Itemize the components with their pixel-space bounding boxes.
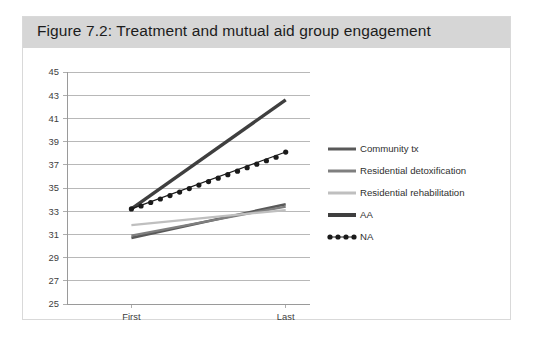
- svg-text:33: 33: [49, 206, 59, 217]
- figure-title: Figure 7.2: Treatment and mutual aid gro…: [37, 22, 431, 40]
- figure-title-bar: Figure 7.2: Treatment and mutual aid gro…: [23, 17, 510, 48]
- svg-text:27: 27: [49, 275, 59, 286]
- x-axis-tick-labels: FirstLast: [122, 304, 295, 320]
- legend-swatch-icon: [327, 231, 357, 243]
- legend-swatch-icon: [327, 187, 357, 199]
- svg-text:First: First: [122, 311, 141, 320]
- legend-swatch-icon: [327, 143, 357, 155]
- svg-text:Last: Last: [277, 311, 295, 320]
- svg-text:37: 37: [49, 159, 59, 170]
- legend-item-label: Community tx: [360, 143, 419, 155]
- svg-text:25: 25: [49, 298, 59, 309]
- legend-item-community-tx[interactable]: Community tx: [327, 138, 507, 160]
- series-residential-rehabilitation: [131, 210, 285, 225]
- svg-text:31: 31: [49, 229, 59, 240]
- legend-swatch-icon: [327, 209, 357, 221]
- legend-item-label: AA: [360, 209, 373, 221]
- legend-item-label: NA: [360, 231, 373, 243]
- svg-text:39: 39: [49, 136, 59, 147]
- figure-card: Figure 7.2: Treatment and mutual aid gro…: [22, 16, 511, 320]
- legend-item-residential-detoxification[interactable]: Residential detoxification: [327, 160, 507, 182]
- legend-item-na[interactable]: NA: [327, 226, 507, 248]
- svg-text:45: 45: [49, 66, 59, 77]
- data-series-lines: [129, 100, 289, 238]
- svg-text:43: 43: [49, 90, 59, 101]
- series-aa: [131, 100, 285, 209]
- chart-legend: Community txResidential detoxificationRe…: [327, 138, 507, 248]
- series-na: [129, 149, 289, 211]
- legend-item-label: Residential rehabilitation: [360, 187, 465, 199]
- legend-item-label: Residential detoxification: [360, 165, 466, 177]
- legend-item-residential-rehabilitation[interactable]: Residential rehabilitation: [327, 182, 507, 204]
- svg-text:29: 29: [49, 252, 59, 263]
- y-axis-tick-labels: 2527293133353739414345: [49, 66, 59, 309]
- legend-item-aa[interactable]: AA: [327, 204, 507, 226]
- svg-text:35: 35: [49, 182, 59, 193]
- svg-text:41: 41: [49, 113, 59, 124]
- legend-swatch-icon: [327, 165, 357, 177]
- chart-area: 2527293133353739414345 FirstLast Communi…: [23, 48, 512, 320]
